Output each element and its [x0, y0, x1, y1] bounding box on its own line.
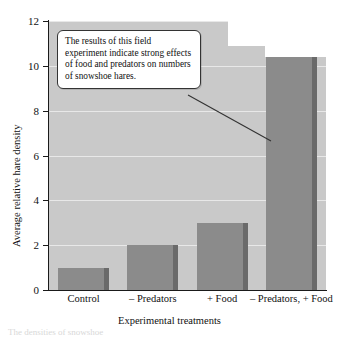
bar-shadow: [243, 223, 248, 290]
y-axis-tick-label: 2: [34, 239, 40, 251]
y-axis-tick-label: 8: [34, 105, 40, 117]
y-axis-tick: [43, 156, 49, 157]
y-axis-title: Average relative hare density: [11, 124, 22, 247]
y-axis-tick-label: 10: [28, 60, 39, 72]
y-axis-tick-label: 12: [28, 15, 39, 27]
bar: [58, 268, 109, 290]
x-axis-line: [48, 290, 327, 291]
y-axis-tick: [43, 245, 49, 246]
x-axis-category-label: + Food: [207, 293, 237, 304]
y-axis-tick-label: 4: [34, 194, 40, 206]
y-axis-tick: [43, 66, 49, 67]
bar: [197, 223, 248, 290]
y-axis-tick: [43, 200, 49, 201]
x-axis-category-label: – Predators, + Food: [250, 293, 333, 304]
bar: [127, 245, 178, 290]
callout-annotation: The results of this field experiment ind…: [57, 30, 201, 89]
y-axis-tick-label: 0: [34, 284, 40, 296]
y-axis-tick-label: 6: [34, 150, 40, 162]
bar: [266, 43, 317, 290]
bar-shadow: [173, 245, 178, 290]
x-axis-category-label: Control: [68, 293, 100, 304]
y-axis-tick: [43, 111, 49, 112]
y-axis-tick: [43, 21, 49, 22]
figure-caption-cutoff: The densities of snowshoe: [8, 327, 103, 337]
y-axis-tick: [43, 290, 49, 291]
bar-shadow: [312, 43, 317, 290]
x-axis-title: Experimental treatments: [0, 315, 339, 326]
x-axis-category-label: – Predators: [129, 293, 177, 304]
page-corner-notch-upper: [265, 0, 339, 57]
figure-panel: Average relative hare density 024681012 …: [0, 0, 339, 337]
bar-shadow: [104, 268, 109, 290]
